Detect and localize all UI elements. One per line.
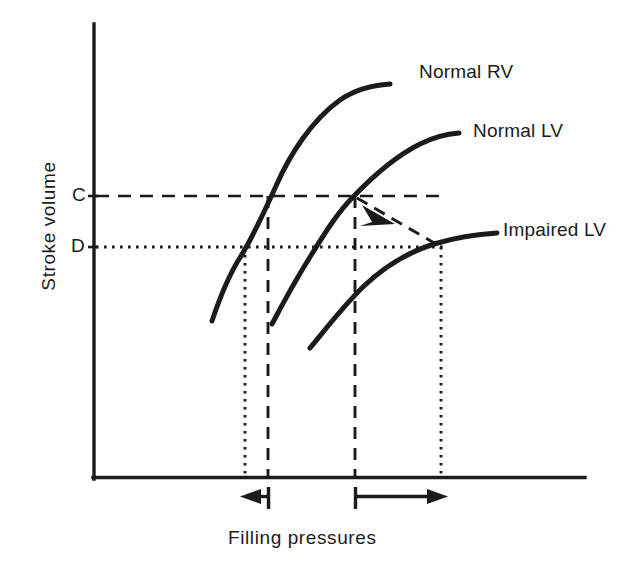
- vertical-drop-lines-group: [245, 196, 441, 478]
- left-arrow-head: [240, 489, 261, 504]
- y-axis-tick-label-d: D: [71, 235, 85, 257]
- left-arrow-annotation: [240, 487, 269, 509]
- y-axis-tick-label-c: C: [72, 184, 86, 206]
- right-arrow-head: [427, 489, 448, 504]
- figure-container: Normal RV Normal LV Impaired LV C D Fill…: [0, 0, 636, 574]
- curve-normal-lv: [272, 133, 459, 324]
- x-axis-title: Filling pressures: [228, 527, 377, 549]
- series-label-normal-rv: Normal RV: [419, 61, 513, 83]
- curve-impaired-lv: [310, 233, 497, 348]
- series-label-impaired-lv: Impaired LV: [503, 219, 606, 241]
- shift-arrow-line: [357, 198, 441, 247]
- chart-canvas: [0, 0, 636, 574]
- right-arrow-annotation: [355, 487, 448, 509]
- below-axis-arrows-group: [240, 487, 448, 509]
- series-label-normal-lv: Normal LV: [473, 120, 563, 142]
- shift-arrow-head: [360, 205, 395, 226]
- y-axis-title: Stroke volume: [38, 151, 60, 301]
- shift-arrow-annotation: [357, 198, 441, 247]
- axes-group: [93, 24, 585, 479]
